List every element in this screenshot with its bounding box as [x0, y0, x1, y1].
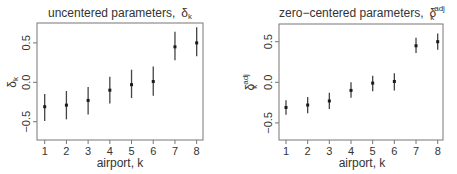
- x-tick-label: 2: [305, 145, 311, 157]
- data-point: [306, 97, 309, 113]
- y-axis: −0.50.00.5: [262, 34, 279, 134]
- y-axis-label: δk: [5, 76, 20, 88]
- data-points: [285, 34, 440, 115]
- point-marker: [328, 99, 331, 102]
- x-tick-label: 1: [283, 145, 289, 157]
- x-axis: 12345678: [283, 140, 441, 157]
- data-point: [436, 34, 439, 50]
- x-tick-label: 7: [172, 145, 178, 157]
- data-point: [350, 82, 353, 97]
- x-tick-label: 3: [85, 145, 91, 157]
- y-tick-label: 0.0: [20, 75, 32, 90]
- panel-uncentered: uncentered parameters,δk 12345678 −0.50.…: [5, 6, 203, 170]
- point-marker: [306, 104, 309, 107]
- data-point: [43, 94, 46, 121]
- x-tick-label: 3: [326, 145, 332, 157]
- data-point: [328, 93, 331, 109]
- chart-title: zero−centered parameters,δkadj: [279, 4, 445, 22]
- data-point: [371, 76, 374, 91]
- point-marker: [152, 80, 155, 83]
- x-tick-label: 6: [150, 145, 156, 157]
- x-tick-label: 8: [194, 145, 200, 157]
- y-tick-label: 0.5: [20, 35, 32, 50]
- y-tick-label: −0.5: [262, 112, 274, 134]
- data-point: [415, 38, 418, 53]
- point-marker: [436, 40, 439, 43]
- data-point: [87, 87, 90, 115]
- plot-frame: [279, 24, 443, 140]
- x-axis: 12345678: [42, 140, 200, 157]
- point-marker: [108, 89, 111, 92]
- data-point: [152, 67, 155, 96]
- x-tick-label: 2: [63, 145, 69, 157]
- x-tick-label: 1: [42, 145, 48, 157]
- data-points: [43, 27, 198, 121]
- data-point: [393, 73, 396, 90]
- point-marker: [195, 41, 198, 44]
- x-tick-label: 8: [435, 145, 441, 157]
- y-tick-label: 0.0: [262, 75, 274, 90]
- data-point: [195, 27, 198, 56]
- point-marker: [130, 83, 133, 86]
- chart-title: uncentered parameters,δk: [48, 6, 193, 21]
- figure: uncentered parameters,δk 12345678 −0.50.…: [0, 0, 457, 174]
- data-point: [65, 91, 68, 119]
- data-point: [130, 70, 133, 98]
- data-point: [108, 77, 111, 104]
- data-point: [173, 32, 176, 60]
- x-tick-label: 6: [391, 145, 397, 157]
- data-point: [285, 100, 288, 115]
- point-marker: [415, 44, 418, 47]
- point-marker: [173, 45, 176, 48]
- point-marker: [350, 89, 353, 92]
- point-marker: [285, 106, 288, 109]
- y-axis-label: δkadj: [241, 74, 259, 91]
- plot-frame: [37, 23, 203, 140]
- point-marker: [371, 82, 374, 85]
- panel-zero-centered: zero−centered parameters,δkadj 12345678 …: [241, 4, 445, 170]
- x-tick-label: 7: [413, 145, 419, 157]
- y-tick-label: −0.5: [20, 111, 32, 133]
- point-marker: [65, 104, 68, 107]
- point-marker: [87, 99, 90, 102]
- point-marker: [43, 105, 46, 108]
- x-axis-label: airport, k: [97, 156, 145, 170]
- y-tick-label: 0.5: [262, 34, 274, 49]
- point-marker: [393, 80, 396, 83]
- x-axis-label: airport, k: [339, 156, 387, 170]
- y-axis: −0.50.00.5: [20, 35, 37, 132]
